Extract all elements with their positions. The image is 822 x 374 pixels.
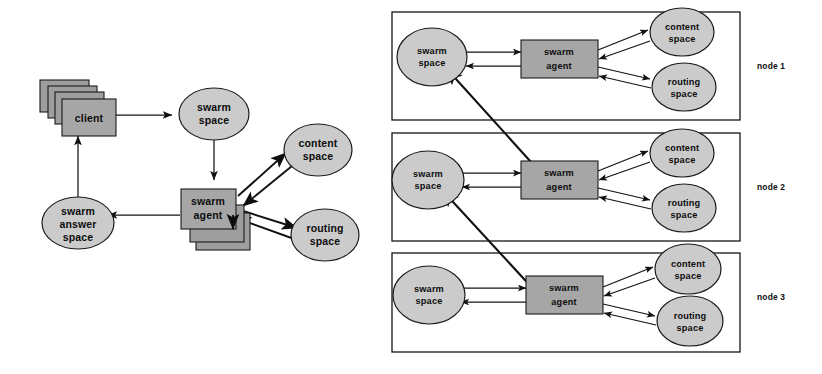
node2-swarm-agent-box[interactable] (521, 161, 598, 199)
node1-edge-agent-to-content-space (598, 30, 648, 50)
node1-content-space-label-line2: space (669, 34, 696, 44)
node2-label: node 2 (757, 182, 785, 192)
node3-routing-space-node[interactable]: routing space (657, 296, 723, 346)
node3-content-space-label-line1: content (671, 259, 705, 269)
node3-content-space-ellipse[interactable] (655, 244, 721, 294)
left-swarm-space-node[interactable]: swarm space (179, 88, 249, 140)
node3-swarm-agent-label-line2: agent (551, 297, 576, 307)
left-swarm-answer-space-label-line3: space (63, 231, 94, 243)
node2-content-space-label-line2: space (669, 155, 696, 165)
node1-routing-space-ellipse[interactable] (652, 63, 716, 111)
left-swarm-answer-space-node[interactable]: swarm answer space (42, 197, 114, 249)
left-swarm-answer-space-label-line1: swarm (61, 205, 95, 217)
node3-content-space-node[interactable]: content space (655, 244, 721, 294)
node2-swarm-space-label-line1: swarm (413, 169, 443, 179)
node3-routing-space-label-line1: routing (674, 311, 707, 321)
node2-swarm-agent-label-line2: agent (546, 182, 571, 192)
left-routing-space-node[interactable]: routing space (291, 209, 359, 261)
left-diagram: client swarm space content space routing… (40, 80, 359, 261)
left-routing-space-label-line1: routing (306, 222, 343, 234)
node1-edge-content-space-to-agent (599, 41, 650, 59)
node1-content-space-label-line1: content (665, 22, 699, 32)
left-swarm-agent-label-line1: swarm (191, 195, 225, 207)
node2-group[interactable]: swarm space swarm agent content space ro… (392, 129, 785, 241)
node3-swarm-space-label-line1: swarm (414, 284, 444, 294)
node1-swarm-space-label-line2: space (419, 58, 446, 68)
left-swarm-space-label-line2: space (199, 114, 230, 126)
node1-swarm-agent-label-line2: agent (546, 61, 571, 71)
left-swarm-agent-label-line2: agent (194, 209, 223, 221)
node3-group[interactable]: swarm space swarm agent content space ro… (392, 244, 785, 352)
node3-swarm-agent-box[interactable] (526, 276, 603, 314)
left-routing-space-label-line2: space (310, 235, 341, 247)
node2-swarm-agent-label-line1: swarm (544, 168, 574, 178)
node3-swarm-agent-node[interactable]: swarm agent (526, 276, 603, 314)
right-diagram: swarm space swarm agent content space (392, 8, 785, 352)
swarm-architecture-svg: client swarm space content space routing… (0, 0, 822, 374)
node2-routing-space-label-line2: space (671, 210, 698, 220)
node2-swarm-space-ellipse[interactable] (392, 151, 464, 209)
node2-content-space-label-line1: content (665, 143, 699, 153)
left-content-space-label-line2: space (303, 150, 334, 162)
node1-routing-space-node[interactable]: routing space (652, 63, 716, 111)
node2-routing-space-node[interactable]: routing space (652, 184, 716, 232)
node1-content-space-ellipse[interactable] (650, 8, 714, 56)
node3-swarm-space-node[interactable]: swarm space (393, 266, 465, 324)
node2-edge-agent-to-content-space (598, 151, 648, 171)
node3-content-space-label-line2: space (675, 271, 702, 281)
node1-label: node 1 (757, 61, 785, 71)
diagram-canvas: client swarm space content space routing… (0, 0, 822, 374)
node2-content-space-ellipse[interactable] (650, 129, 714, 177)
node2-content-space-node[interactable]: content space (650, 129, 714, 177)
node3-label: node 3 (757, 292, 785, 302)
left-swarm-agent-node[interactable]: swarm agent (181, 189, 250, 250)
node1-content-space-node[interactable]: content space (650, 8, 714, 56)
node3-routing-space-ellipse[interactable] (657, 296, 723, 346)
node3-routing-space-label-line2: space (677, 323, 704, 333)
node1-swarm-space-label-line1: swarm (417, 46, 447, 56)
node2-swarm-space-label-line2: space (415, 181, 442, 191)
node1-routing-space-label-line2: space (671, 89, 698, 99)
node1-swarm-agent-label-line1: swarm (544, 47, 574, 57)
left-swarm-answer-space-label-line2: answer (59, 218, 96, 230)
node3-swarm-agent-label-line1: swarm (549, 283, 579, 293)
node1-swarm-space-node[interactable]: swarm space (397, 28, 467, 86)
node3-edge-agent-to-content-space (603, 267, 653, 287)
node3-swarm-space-ellipse[interactable] (393, 266, 465, 324)
node1-swarm-agent-box[interactable] (521, 40, 598, 78)
node3-edge-content-space-to-agent (604, 278, 655, 296)
client-node[interactable]: client (40, 80, 116, 136)
node2-edge-content-space-to-agent (599, 162, 650, 180)
node1-routing-space-label-line1: routing (668, 77, 701, 87)
left-content-space-label-line1: content (299, 137, 338, 149)
node2-routing-space-label-line1: routing (668, 198, 701, 208)
node3-swarm-space-label-line2: space (416, 296, 443, 306)
node2-swarm-space-node[interactable]: swarm space (392, 151, 464, 209)
client-label: client (75, 112, 104, 124)
node2-routing-space-ellipse[interactable] (652, 184, 716, 232)
node1-group[interactable]: swarm space swarm agent content space (392, 8, 785, 120)
left-swarm-space-label-line1: swarm (197, 101, 231, 113)
node1-swarm-space-ellipse[interactable] (397, 28, 467, 86)
left-content-space-node[interactable]: content space (284, 124, 352, 176)
node2-swarm-agent-node[interactable]: swarm agent (521, 161, 598, 199)
node1-swarm-agent-node[interactable]: swarm agent (521, 40, 598, 78)
